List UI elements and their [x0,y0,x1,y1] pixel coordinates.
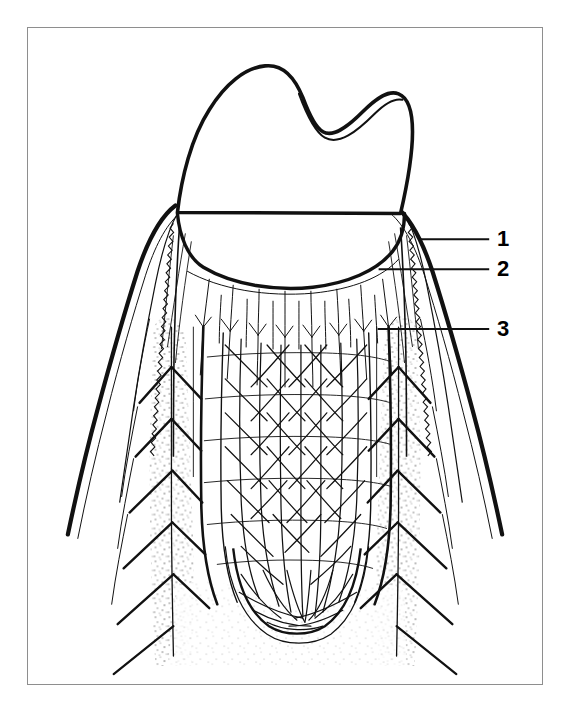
label-3: 3 [497,318,509,340]
label-2: 2 [497,258,509,280]
figure-page: 1 2 3 [0,0,572,708]
tooth-periodontium-illustration [28,28,542,684]
label-1: 1 [497,228,509,250]
figure-frame [27,27,543,685]
